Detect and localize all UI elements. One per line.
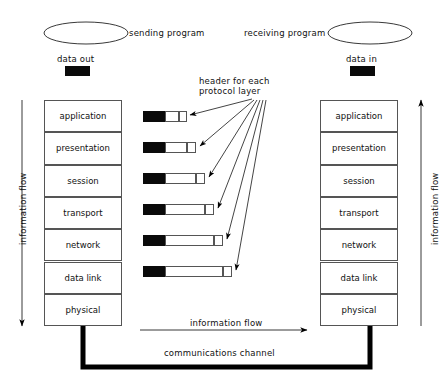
packet-tail-segment [214, 235, 223, 246]
header-note-line2: protocol layer [199, 86, 261, 96]
packet-bar-data-link [143, 266, 232, 277]
packet-tail-segment [205, 204, 214, 215]
packet-bar-transport [143, 204, 214, 215]
sending-program-ellipse [44, 22, 128, 44]
header-note-line1: header for each [199, 76, 270, 86]
packet-bar-session [143, 173, 205, 184]
packet-tail-segment [187, 142, 196, 153]
packet-header-segment [143, 142, 165, 153]
packet-bar-application [143, 111, 187, 122]
packet-body-segment [165, 173, 196, 184]
layer-box-right-application[interactable]: application [320, 100, 398, 132]
packet-body-segment [165, 142, 187, 153]
layer-box-left-application[interactable]: application [44, 100, 122, 132]
data-in-block [350, 66, 375, 76]
sending-program-label: sending program [129, 28, 205, 38]
packet-tail-segment [196, 173, 205, 184]
communications-channel-line [83, 326, 370, 367]
bottom-information-flow-label: information flow [190, 318, 262, 328]
packet-body-segment [165, 235, 214, 246]
layer-box-left-network[interactable]: network [44, 229, 122, 261]
packet-tail-segment [223, 266, 232, 277]
packet-body-segment [165, 266, 223, 277]
packet-body-segment [165, 111, 179, 122]
receiving-program-label: receiving program [244, 28, 325, 38]
right-information-flow-label: information flow [430, 173, 440, 245]
layer-box-left-data-link[interactable]: data link [44, 262, 122, 294]
packet-header-segment [143, 235, 165, 246]
layer-box-left-physical[interactable]: physical [44, 294, 122, 326]
receiving-program-ellipse [328, 22, 412, 44]
layer-box-right-presentation[interactable]: presentation [320, 132, 398, 164]
layer-box-right-physical[interactable]: physical [320, 294, 398, 326]
packet-header-segment [143, 266, 165, 277]
data-in-label: data in [346, 54, 377, 64]
packet-bar-network [143, 235, 223, 246]
packet-bar-presentation [143, 142, 196, 153]
layer-box-right-session[interactable]: session [320, 165, 398, 197]
left-information-flow-label: information flow [18, 173, 28, 245]
packet-header-segment [143, 173, 165, 184]
layer-box-right-transport[interactable]: transport [320, 197, 398, 229]
layer-box-left-session[interactable]: session [44, 165, 122, 197]
layer-box-right-network[interactable]: network [320, 229, 398, 261]
layer-box-right-data-link[interactable]: data link [320, 262, 398, 294]
packet-tail-segment [179, 111, 187, 122]
communications-channel-label: communications channel [164, 348, 275, 358]
layer-box-left-transport[interactable]: transport [44, 197, 122, 229]
packet-body-segment [165, 204, 205, 215]
data-out-label: data out [57, 54, 94, 64]
layer-box-left-presentation[interactable]: presentation [44, 132, 122, 164]
packet-header-segment [143, 111, 165, 122]
packet-header-segment [143, 204, 165, 215]
data-out-block [65, 66, 90, 76]
diagram-canvas: sending program receiving program data o… [0, 0, 442, 388]
